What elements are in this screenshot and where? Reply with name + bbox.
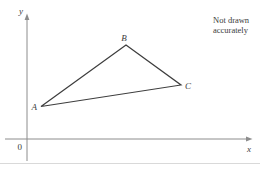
geometry-figure: y 0 x A B C Not drawn accurately	[0, 0, 260, 169]
x-axis-label: x	[246, 144, 251, 154]
vertex-label-a: A	[31, 102, 38, 112]
triangle-abc	[41, 45, 181, 107]
vertex-label-b: B	[121, 33, 127, 43]
note-line-2: accurately	[213, 25, 249, 35]
y-axis-label: y	[18, 6, 23, 16]
origin-label: 0	[18, 142, 23, 152]
vertex-label-c: C	[185, 81, 192, 91]
bottom-divider	[0, 163, 260, 164]
y-axis-arrowhead-icon	[25, 14, 30, 21]
x-axis-arrowhead-icon	[246, 137, 253, 142]
note-line-1: Not drawn	[213, 15, 249, 25]
not-drawn-accurately-note: Not drawn accurately	[213, 15, 249, 35]
